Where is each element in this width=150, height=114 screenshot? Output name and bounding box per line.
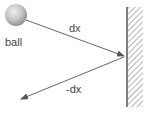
reflected-vector-label: -dx	[66, 83, 82, 95]
reflection-diagram: ball dx -dx	[0, 0, 150, 114]
wall-hatching	[128, 7, 143, 107]
incoming-vector-label: dx	[69, 22, 81, 34]
ball-icon	[5, 4, 27, 26]
ball-label: ball	[5, 36, 22, 48]
